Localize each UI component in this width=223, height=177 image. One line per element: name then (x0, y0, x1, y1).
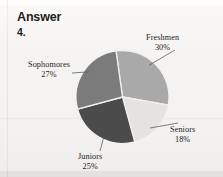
slice-label-sophomores-percent: 27% (28, 70, 70, 80)
slice-label-seniors-name: Seniors (170, 125, 195, 135)
slice-label-freshmen-name: Freshmen (146, 33, 179, 43)
slice-label-freshmen: Freshmen 30% (146, 33, 179, 53)
slice-label-sophomores-name: Sophomores (28, 60, 70, 70)
pie-chart (0, 0, 223, 177)
slice-label-juniors-name: Juniors (78, 152, 102, 162)
slice-label-juniors-percent: 25% (78, 162, 102, 172)
slice-label-sophomores: Sophomores 27% (28, 60, 70, 80)
slice-label-seniors-percent: 18% (170, 135, 195, 145)
slice-label-freshmen-percent: 30% (146, 43, 179, 53)
slice-label-seniors: Seniors 18% (170, 125, 195, 145)
answer-page: Answer 4. Freshmen 30% Sophomores 27% Se… (0, 0, 223, 177)
slice-label-juniors: Juniors 25% (78, 152, 102, 172)
pie-chart-svg (0, 0, 223, 177)
pie-slice-group (76, 50, 169, 143)
